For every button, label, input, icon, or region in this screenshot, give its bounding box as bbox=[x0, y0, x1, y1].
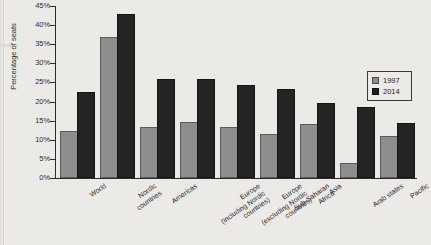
legend-swatch-icon-1997 bbox=[372, 77, 379, 84]
legend-swatch-icon-2014 bbox=[372, 88, 379, 95]
legend: 1997 2014 bbox=[367, 71, 412, 101]
bar-2014-europe-including-nordic-countries bbox=[197, 79, 215, 178]
y-tick-mark bbox=[50, 25, 55, 26]
y-tick-label: 35% bbox=[16, 39, 50, 48]
bar-1997-europe-including-nordic-countries bbox=[180, 122, 198, 178]
x-axis-label: World bbox=[88, 182, 108, 199]
y-tick-mark bbox=[50, 63, 55, 64]
y-tick-label: 20% bbox=[16, 97, 50, 106]
bar-2014-world bbox=[77, 92, 95, 178]
x-axis-label: Arab states bbox=[371, 182, 405, 209]
y-tick-label: 10% bbox=[16, 135, 50, 144]
y-tick-mark bbox=[50, 159, 55, 160]
bar-1997-europe-excluding-nordic-countries bbox=[220, 127, 238, 178]
y-tick-label: 5% bbox=[16, 154, 50, 163]
x-axis-label: Nordiccountries bbox=[130, 182, 163, 212]
y-tick-mark bbox=[50, 121, 55, 122]
y-tick-mark bbox=[50, 178, 55, 179]
bar-1997-asia bbox=[300, 124, 318, 178]
y-tick-mark bbox=[50, 44, 55, 45]
bar-2014-europe-excluding-nordic-countries bbox=[237, 85, 255, 178]
bar-1997-pacific bbox=[380, 136, 398, 178]
y-tick-label: 30% bbox=[16, 58, 50, 67]
bar-group bbox=[140, 6, 174, 178]
bar-2014-arab-states bbox=[357, 107, 375, 178]
bar-group bbox=[260, 6, 294, 178]
bar-2014-sub-saharan-africa bbox=[277, 89, 295, 178]
bar-1997-world bbox=[60, 131, 78, 178]
y-tick-label: 0% bbox=[16, 173, 50, 182]
legend-label-1997: 1997 bbox=[383, 76, 400, 85]
x-axis-label: Americas bbox=[170, 182, 199, 206]
bar-1997-sub-saharan-africa bbox=[260, 134, 278, 178]
x-axis-label: Asia bbox=[327, 182, 343, 197]
legend-item-1997: 1997 bbox=[372, 75, 407, 86]
y-tick-label: 25% bbox=[16, 77, 50, 86]
bar-group bbox=[220, 6, 254, 178]
legend-label-2014: 2014 bbox=[383, 87, 400, 96]
bar-1997-nordic-countries bbox=[100, 37, 118, 178]
bar-2014-pacific bbox=[397, 123, 415, 179]
bar-2014-asia bbox=[317, 103, 335, 178]
bar-2014-nordic-countries bbox=[117, 14, 135, 178]
bar-group bbox=[60, 6, 94, 178]
x-axis-line bbox=[55, 178, 417, 179]
plot-area bbox=[56, 6, 416, 178]
bar-group bbox=[300, 6, 334, 178]
bar-2014-americas bbox=[157, 79, 175, 178]
bar-1997-arab-states bbox=[340, 163, 358, 178]
y-tick-mark bbox=[50, 102, 55, 103]
y-tick-mark bbox=[50, 82, 55, 83]
bar-group bbox=[100, 6, 134, 178]
y-tick-label: 45% bbox=[16, 1, 50, 10]
y-tick-mark bbox=[50, 6, 55, 7]
y-tick-label: 40% bbox=[16, 20, 50, 29]
legend-item-2014: 2014 bbox=[372, 86, 407, 97]
y-tick-label: 15% bbox=[16, 116, 50, 125]
x-axis-label: Pacific bbox=[409, 182, 431, 201]
bar-group bbox=[180, 6, 214, 178]
bar-1997-americas bbox=[140, 127, 158, 178]
y-tick-mark bbox=[50, 140, 55, 141]
